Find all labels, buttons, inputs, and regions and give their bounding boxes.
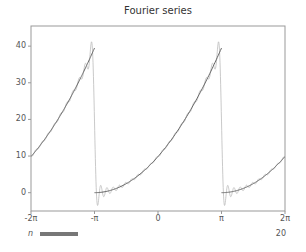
y-tick-label: 0 bbox=[4, 188, 26, 197]
true-function-line bbox=[31, 48, 285, 193]
x-tick-label: 2π bbox=[270, 214, 300, 223]
n-slider[interactable] bbox=[40, 232, 285, 236]
slider-label: n bbox=[28, 229, 33, 238]
x-tick-label: -2π bbox=[16, 214, 46, 223]
slider-fill[interactable] bbox=[40, 232, 78, 236]
y-tick-label: 20 bbox=[4, 114, 26, 123]
y-tick-label: 10 bbox=[4, 151, 26, 160]
x-tick-label: 0 bbox=[143, 214, 173, 223]
axes-frame bbox=[31, 26, 285, 211]
y-tick-label: 40 bbox=[4, 41, 26, 50]
x-tick-label: π bbox=[207, 214, 237, 223]
x-tick-label: -π bbox=[80, 214, 110, 223]
series-group bbox=[31, 42, 285, 206]
slider-value: 20 bbox=[268, 229, 286, 238]
y-tick-label: 30 bbox=[4, 78, 26, 87]
fourier-approximation-line bbox=[31, 42, 285, 206]
